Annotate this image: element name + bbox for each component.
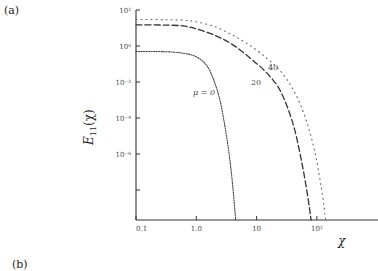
y-axis-title: E11(χ) (82, 109, 98, 146)
curve-label: μ = 0 (193, 88, 215, 97)
x-tick-label: 10 (252, 225, 261, 233)
series-line--20 (136, 25, 311, 220)
y-tick-label: 10⁻² (116, 79, 132, 87)
axes (136, 10, 378, 220)
curve-label: 40 (268, 63, 278, 72)
y-axis-title-sub: 11 (89, 126, 98, 136)
y-axis-title-main: E (82, 136, 96, 146)
x-axis-title: χ (337, 234, 346, 248)
series-group (136, 19, 326, 220)
y-tick-label: 10⁻⁶ (116, 151, 132, 159)
series-line--40 (136, 19, 326, 220)
x-tick-label: 0.1 (136, 225, 147, 233)
x-ticks: 0.11.01010² (136, 216, 323, 233)
y-axis-title-arg: (χ) (82, 109, 96, 126)
x-tick-label: 1.0 (191, 225, 202, 233)
x-tick-label: 10² (311, 225, 323, 233)
y-tick-label: 10² (119, 7, 131, 15)
y-tick-label: 10⁻⁴ (116, 115, 132, 123)
series-line--0 (136, 51, 236, 220)
y-tick-label: 10⁰ (119, 43, 131, 51)
curve-labels: μ = 02040 (193, 63, 278, 97)
curve-label: 20 (251, 78, 261, 87)
